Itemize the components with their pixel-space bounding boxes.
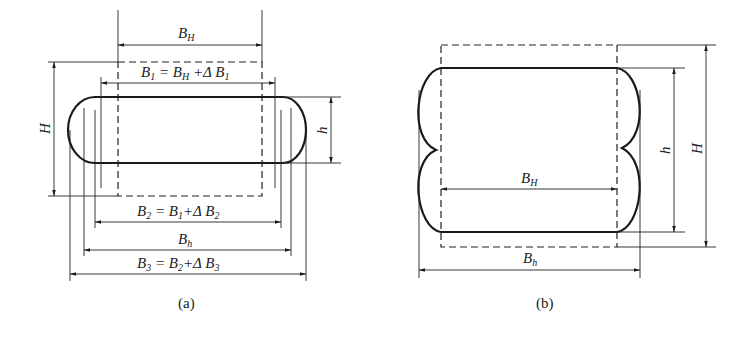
extension-lines-b	[419, 45, 716, 278]
extension-lines-a	[48, 10, 341, 281]
label-B3: B3 = B2+Δ B3	[137, 255, 220, 273]
label-B1: B1 = BH +Δ B1	[141, 64, 230, 82]
label-Bh-b: Bh	[523, 250, 537, 268]
figure-b: BH Bh h H (b)	[418, 45, 716, 312]
figure-a: BH B1 = BH +Δ B1 B2 = B1+Δ B2 Bh B3 = B2…	[37, 10, 341, 312]
label-Bh-a: Bh	[178, 231, 192, 249]
slot-shape-a	[68, 97, 306, 163]
label-B2: B2 = B1+Δ B2	[137, 203, 220, 221]
label-BH-a: BH	[178, 25, 195, 43]
label-h-b: h	[657, 147, 673, 155]
label-BH-b: BH	[521, 170, 538, 188]
bulged-shape-b	[418, 68, 639, 232]
caption-b: (b)	[536, 295, 554, 312]
diagram-canvas: BH B1 = BH +Δ B1 B2 = B1+Δ B2 Bh B3 = B2…	[0, 0, 751, 340]
label-H-b: H	[689, 142, 705, 155]
dashed-outline-a	[118, 62, 262, 196]
label-H-a: H	[37, 122, 53, 135]
label-h-a: h	[314, 127, 330, 135]
caption-a: (a)	[178, 295, 195, 312]
dashed-outline-b	[441, 45, 617, 247]
